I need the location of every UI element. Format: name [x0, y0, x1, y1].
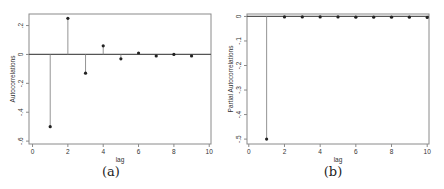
y-axis-label: Autocorrelations [9, 55, 16, 103]
y-tick-label: -.4 [17, 108, 24, 116]
data-point [283, 15, 286, 18]
x-tick-label: 6 [354, 148, 358, 155]
data-point [319, 15, 322, 18]
data-point [66, 17, 69, 20]
data-point [408, 16, 411, 19]
data-point [172, 53, 175, 56]
data-point [119, 57, 122, 60]
y-tick-label: -.6 [17, 137, 24, 145]
x-axis-label: lag [116, 156, 125, 164]
y-tick-label: .2 [17, 22, 24, 28]
data-point [265, 137, 268, 140]
data-point [190, 54, 193, 57]
x-tick-label: 4 [101, 148, 105, 155]
acf-panel: .20-.2-.4-.60246810lagAutocorrelations (… [0, 0, 222, 189]
data-point [137, 51, 140, 54]
pacf-panel: 0-.1-.2-.3-.4-.50246810lagPartial Autoco… [222, 0, 444, 189]
x-tick-label: 8 [172, 148, 176, 155]
caption-b: (b) [222, 164, 444, 179]
data-point [336, 15, 339, 18]
y-tick-label: -.2 [17, 79, 24, 87]
data-point [426, 16, 429, 19]
data-point [301, 15, 304, 18]
x-tick-label: 6 [137, 148, 141, 155]
pacf-chart: 0-.1-.2-.3-.4-.50246810lagPartial Autoco… [222, 0, 444, 189]
y-tick-label: -.3 [235, 86, 242, 94]
y-tick-label: 0 [17, 52, 24, 56]
data-point [84, 72, 87, 75]
acf-chart: .20-.2-.4-.60246810lagAutocorrelations [0, 0, 222, 189]
data-point [372, 16, 375, 19]
x-tick-label: 0 [247, 148, 251, 155]
caption-a: (a) [0, 164, 222, 179]
x-axis-label: lag [334, 156, 343, 164]
x-tick-label: 4 [318, 148, 322, 155]
y-tick-label: -.5 [235, 135, 242, 143]
x-tick-label: 10 [206, 148, 214, 155]
x-tick-label: 2 [66, 148, 70, 155]
x-tick-label: 0 [31, 148, 35, 155]
y-tick-label: -.2 [235, 61, 242, 69]
data-point [390, 16, 393, 19]
y-tick-label: 0 [235, 14, 242, 18]
data-point [354, 16, 357, 19]
y-tick-label: -.1 [235, 37, 242, 45]
plot-frame [247, 14, 429, 144]
plot-frame [29, 14, 211, 144]
x-tick-label: 10 [424, 148, 432, 155]
x-tick-label: 8 [390, 148, 394, 155]
data-point [49, 125, 52, 128]
data-point [155, 54, 158, 57]
y-axis-label: Partial Autocorrelations [227, 45, 234, 113]
x-tick-label: 2 [283, 148, 287, 155]
caption-a-text: (a) [102, 164, 120, 179]
y-tick-label: -.4 [235, 110, 242, 118]
data-point [102, 44, 105, 47]
caption-b-text: (b) [324, 164, 342, 179]
